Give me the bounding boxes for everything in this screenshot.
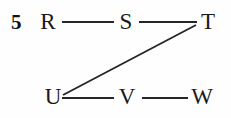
graph-figure: 5 R S T U V W [0, 0, 231, 118]
graph-node-s: S [116, 10, 136, 33]
graph-node-u: U [42, 85, 64, 108]
graph-node-v: V [117, 85, 137, 108]
graph-node-r: R [38, 10, 58, 33]
graph-node-t: T [198, 10, 218, 33]
figure-number-label: 5 [11, 12, 22, 33]
graph-node-w: W [188, 85, 216, 108]
